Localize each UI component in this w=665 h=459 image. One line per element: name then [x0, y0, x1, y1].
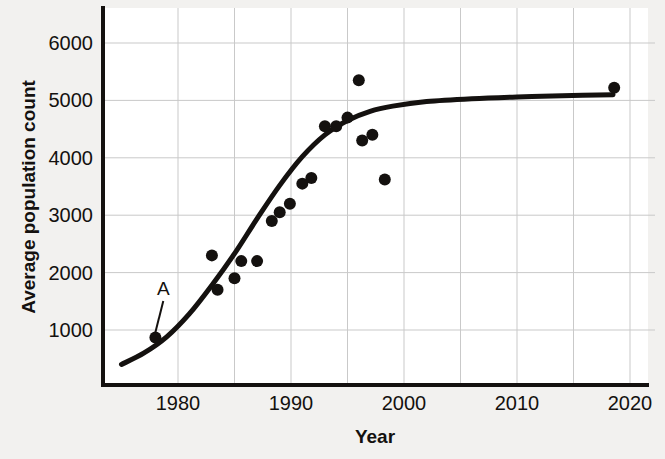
y-axis-title: Average population count: [18, 80, 39, 314]
x-tick-label: 2020: [608, 392, 653, 414]
data-point: [342, 112, 354, 124]
data-point: [206, 249, 218, 261]
y-tick-label: 6000: [49, 32, 94, 54]
chart-figure: A 100020003000400050006000 1980199020002…: [0, 0, 665, 459]
annotation-a-label: A: [157, 278, 170, 299]
population-scatter-chart: A 100020003000400050006000 1980199020002…: [0, 0, 665, 459]
x-tick-label: 1990: [269, 392, 314, 414]
y-tick-label: 4000: [49, 147, 94, 169]
x-tick-label: 2000: [382, 392, 427, 414]
y-tick-label: 5000: [49, 89, 94, 111]
data-point: [235, 255, 247, 267]
x-tick-label: 2010: [495, 392, 540, 414]
data-point: [251, 255, 263, 267]
data-point: [274, 206, 286, 218]
data-point: [149, 331, 161, 343]
data-point: [366, 129, 378, 141]
data-point: [330, 120, 342, 132]
y-tick-label: 1000: [49, 319, 94, 341]
data-point: [229, 272, 241, 284]
data-point: [319, 120, 331, 132]
plot-area: [103, 8, 648, 385]
y-tick-label: 2000: [49, 262, 94, 284]
data-point: [212, 284, 224, 296]
data-point: [608, 82, 620, 94]
data-point: [284, 198, 296, 210]
y-tick-label: 3000: [49, 204, 94, 226]
data-point: [353, 74, 365, 86]
x-tick-label: 1980: [156, 392, 201, 414]
data-point: [379, 174, 391, 186]
data-point: [356, 135, 368, 147]
x-axis-title: Year: [355, 426, 396, 447]
data-point: [305, 172, 317, 184]
